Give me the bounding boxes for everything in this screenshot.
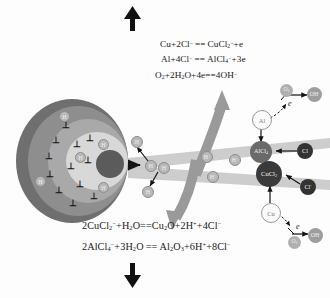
alcl4-complex: AlCl4 (250, 141, 272, 163)
hydroxide-ion-lower: OH- (308, 228, 323, 243)
hydrogen-atom-crack: H (158, 162, 170, 174)
curved-arrow-up (196, 90, 230, 175)
hydrogen-atom-sphere: H (98, 139, 109, 150)
oxygen-molecule-upper: O2 (280, 84, 293, 97)
stress-arrow-down (124, 263, 141, 288)
sphere-core (96, 150, 124, 178)
dislocation-symbol: ⊥ (76, 180, 84, 189)
hydrogen-atom-crack: H (142, 186, 154, 198)
dislocation-symbol: ⊥ (52, 136, 60, 145)
dislocation-symbol: ⊥ (62, 121, 70, 130)
dislocation-symbol: ⊥ (73, 140, 81, 149)
hydrogen-atom-sphere: H (59, 111, 70, 122)
hydrogen-atom-crack: H (145, 160, 157, 172)
equation-anodic-cu: Cu+2Cl− == CuCl2−+e (160, 39, 243, 49)
cu-atom-open: Cu (261, 203, 281, 223)
dislocation-symbol: ⊥ (55, 186, 63, 195)
dislocation-symbol: ⊥ (90, 192, 98, 201)
equation-hydrolysis-al: 2AlCl4−+3H2O == Al2O3+6H++8Cl− (82, 241, 231, 252)
electron-label-lower: e (296, 222, 300, 231)
dislocation-symbol: ⊥ (45, 152, 53, 161)
dislocation-symbol: ⊥ (86, 134, 94, 143)
hydrogen-atom-sphere: H (75, 152, 86, 163)
dislocation-symbol: ⊥ (67, 162, 75, 171)
proton-species: H+ (207, 171, 219, 183)
equation-anodic-al: Al+4Cl− == AlCl4−+3e (161, 54, 246, 64)
cucl2-complex: CuCl2 (256, 161, 282, 187)
dislocation-symbol: ⊥ (69, 199, 77, 208)
electron-label-upper: e (288, 99, 292, 108)
hydroxide-ion-upper: OH- (307, 87, 322, 102)
stress-arrow-up (124, 6, 141, 31)
oxygen-molecule-lower: O2 (288, 236, 301, 249)
equation-cathodic-oxygen: O2+2H2O+4e==4OH− (155, 70, 237, 80)
chloride-ion-lower: Cl- (300, 179, 316, 195)
proton-species: H+ (229, 154, 241, 166)
hydrogen-atom-sphere: H (35, 176, 46, 187)
al-atom-open: Al (252, 110, 272, 130)
equation-hydrolysis-cu: 2CuCl2−+H2O==Cu2O+2H++4Cl− (82, 220, 221, 231)
dislocation-symbol: ⊥ (46, 170, 54, 179)
figure-canvas: ⊥ ⊥ ⊥ ⊥ ⊥ ⊥ ⊥ ⊥ ⊥ ⊥ ⊥ ⊥ H H H H H H H H … (0, 0, 330, 298)
chloride-ion-upper: Cl (297, 143, 313, 159)
hydrogen-atom-sphere: H (98, 182, 109, 193)
hydrogen-atom-crack: H (131, 136, 143, 148)
proton-species: H+ (201, 151, 213, 163)
